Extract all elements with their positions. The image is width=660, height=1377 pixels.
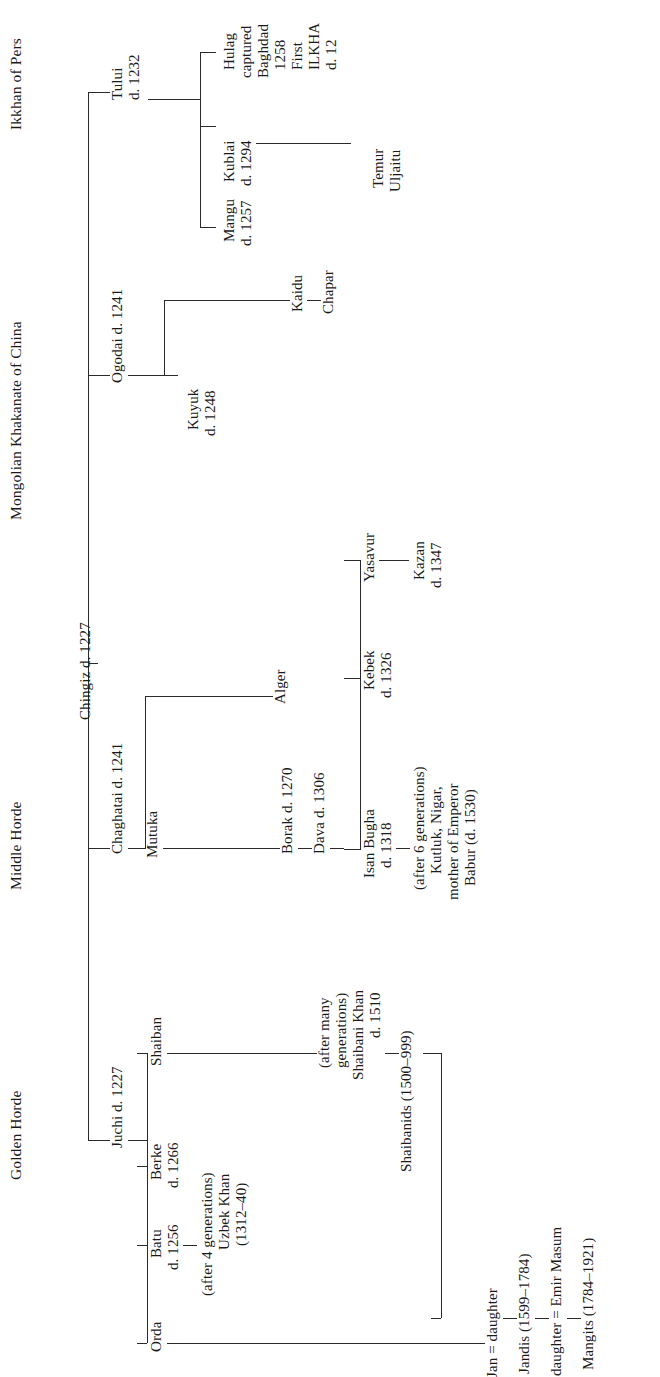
dava-bus-foot — [344, 849, 360, 850]
jan-to-jandis-rule — [503, 1318, 517, 1319]
isan-bugha-to-babur-rule — [396, 848, 410, 849]
chingiz-tick — [88, 663, 98, 664]
hulag-stub — [200, 52, 216, 53]
ogodai-to-kaidu-rule — [164, 300, 290, 301]
shaibani-to-shaibanids-rule — [385, 1053, 399, 1054]
batu-to-uzbek-rule — [183, 1245, 197, 1246]
dava-children-bus — [360, 560, 361, 850]
chaghatai-connector — [88, 848, 110, 849]
mutuka-to-borak-rule — [163, 848, 280, 849]
kuyuk-stub — [164, 375, 178, 376]
berke-tick — [137, 1166, 147, 1167]
mangu-stub — [200, 227, 216, 228]
yasavur-to-kazan-rule — [379, 560, 409, 561]
chingiz-spine — [88, 92, 89, 1140]
orda-stub — [137, 1343, 147, 1344]
tului-children-bus — [200, 52, 201, 227]
juchi-to-children-rule — [128, 1140, 147, 1141]
kaidu-to-chapar-rule — [307, 300, 321, 301]
batu-tick — [137, 1245, 147, 1246]
juchi-children-bus — [147, 1053, 148, 1343]
shaibanids-drop-head — [423, 1053, 441, 1054]
shaibanids-drop-foot — [431, 1318, 441, 1319]
kublai-stub — [200, 126, 216, 127]
yasavur-stub — [344, 560, 360, 561]
kebek-stub — [344, 678, 360, 679]
shaibanids-drop — [441, 1053, 442, 1318]
genealogy-chart-page: Ikkhan of Pers Mongolian Khakanate of Ch… — [0, 0, 660, 1377]
mutuka-to-alger-rule — [145, 696, 273, 697]
chaghatai-to-mutuka-rule — [128, 848, 145, 849]
ogodai-children-bus — [164, 300, 165, 376]
ogodai-connector — [88, 375, 110, 376]
dava-to-children-rule — [330, 848, 344, 849]
tului-connector — [88, 92, 110, 93]
kublai-to-temur-rule — [256, 143, 351, 144]
juchi-connector — [88, 1140, 110, 1141]
jandis-to-daughter-rule — [535, 1318, 549, 1319]
ogodai-to-children-rule — [128, 375, 164, 376]
daughter-to-mangits-rule — [567, 1318, 581, 1319]
borak-to-dava-rule — [298, 848, 312, 849]
mutuka-bus — [145, 696, 146, 849]
orda-to-jan-rule — [167, 1343, 485, 1344]
shaiban-stub — [137, 1053, 147, 1054]
shaiban-to-shaibani-rule — [167, 1053, 317, 1054]
tului-to-children-rule — [148, 99, 200, 100]
